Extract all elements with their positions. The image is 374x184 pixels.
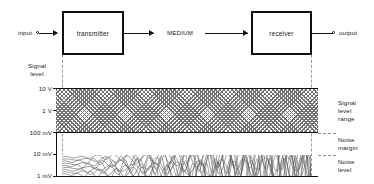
diagram-canvas: input transmitter MEDIUM receiver output… — [0, 0, 374, 184]
y-tick-label-1mv: 1 mV — [8, 172, 52, 180]
noise-level-band — [62, 155, 311, 176]
transmitter-block[interactable]: transmitter — [62, 11, 124, 55]
noise-margin-label-line1: Noise — [338, 136, 355, 144]
receiver-label: receiver — [253, 30, 310, 37]
y-tick-label-10mv: 10 mV — [8, 150, 52, 158]
y-tick-label-10v: 10 V — [8, 85, 52, 93]
input-terminal-label: input — [18, 29, 32, 37]
axis-title-line1: Signal — [16, 62, 58, 70]
transmitter-label: transmitter — [64, 30, 122, 37]
signal-level-range-label-line1: Signal — [338, 99, 356, 107]
axis-title-line2: level — [16, 70, 58, 78]
axis-baseline — [56, 176, 318, 177]
signal-level-range-band — [56, 88, 318, 133]
receiver-block[interactable]: receiver — [251, 11, 312, 55]
noise-level-label-line1: Noise — [338, 158, 355, 166]
input-arrow-icon — [53, 30, 58, 36]
noise-margin-label-line2: margin — [338, 144, 358, 152]
noise-margin-lower-separator — [318, 155, 336, 156]
noise-level-label-line2: level — [338, 166, 351, 174]
medium-label: MEDIUM — [158, 29, 202, 37]
medium-to-receiver-wire — [205, 33, 248, 34]
y-tick-mark-10mv — [53, 154, 56, 155]
y-tick-label-100mv: 100 mV — [8, 129, 52, 137]
output-terminal-circle — [332, 31, 335, 34]
signal-level-range-label-line3: range — [338, 115, 355, 123]
output-wire — [312, 33, 333, 34]
y-tick-label-1v: 1 V — [8, 107, 52, 115]
receiver-in-arrow-icon — [243, 30, 248, 36]
signal-level-range-label-line2: level — [338, 107, 351, 115]
output-terminal-label: output — [339, 29, 357, 37]
noise-margin-upper-separator — [318, 133, 336, 134]
medium-in-arrow-icon — [149, 30, 154, 36]
